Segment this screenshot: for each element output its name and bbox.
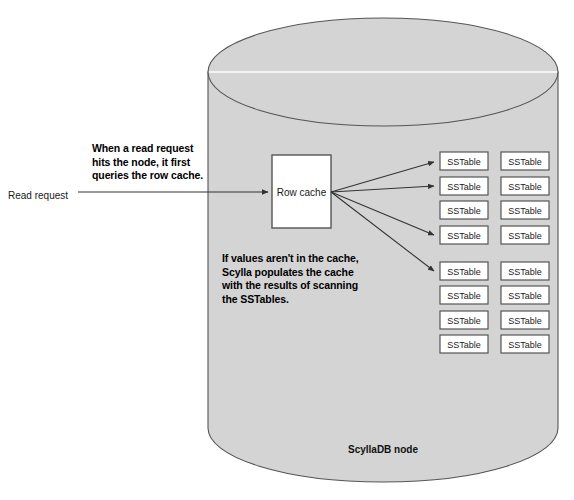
sstable-label: SSTable (508, 231, 542, 241)
sstable-label: SSTable (447, 340, 481, 350)
sstable-box: SSTable (440, 286, 488, 304)
diagram-canvas: Row cache SSTable SSTable SSTable (0, 0, 574, 500)
sstable-label: SSTable (447, 206, 481, 216)
scylladb-node-cylinder (208, 18, 558, 482)
sstable-label: SSTable (508, 267, 542, 277)
read-request-label: Read request (8, 190, 68, 201)
scylladb-node-label: ScyllaDB node (348, 444, 418, 455)
sstable-box: SSTable (501, 335, 549, 353)
sstable-box: SSTable (501, 201, 549, 219)
sstable-box: SSTable (501, 152, 549, 170)
sstable-box: SSTable (501, 177, 549, 195)
sstable-label: SSTable (508, 316, 542, 326)
row-cache-label: Row cache (277, 187, 327, 198)
sstable-box: SSTable (440, 201, 488, 219)
sstable-box: SSTable (440, 262, 488, 280)
sstable-box: SSTable (501, 311, 549, 329)
sstable-label: SSTable (447, 291, 481, 301)
sstable-box: SSTable (440, 335, 488, 353)
sstable-label: SSTable (447, 316, 481, 326)
sstable-label: SSTable (447, 231, 481, 241)
sstable-box: SSTable (440, 152, 488, 170)
sstable-box: SSTable (440, 226, 488, 244)
sstable-label: SSTable (508, 340, 542, 350)
sstable-label: SSTable (508, 157, 542, 167)
sstable-box: SSTable (440, 311, 488, 329)
sstable-box: SSTable (501, 226, 549, 244)
sstable-label: SSTable (447, 182, 481, 192)
sstable-label: SSTable (508, 182, 542, 192)
row-cache-box: Row cache (272, 155, 331, 228)
sstable-label: SSTable (508, 206, 542, 216)
diagram-svg: Row cache SSTable SSTable SSTable (0, 0, 574, 500)
sstable-box: SSTable (501, 262, 549, 280)
sstable-label: SSTable (447, 157, 481, 167)
sstable-label: SSTable (508, 291, 542, 301)
read-request-callout: When a read request hits the node, it fi… (92, 142, 222, 183)
sstable-label: SSTable (447, 267, 481, 277)
sstable-box: SSTable (440, 177, 488, 195)
cache-populate-callout: If values aren't in the cache, Scylla po… (222, 252, 374, 306)
sstable-box: SSTable (501, 286, 549, 304)
